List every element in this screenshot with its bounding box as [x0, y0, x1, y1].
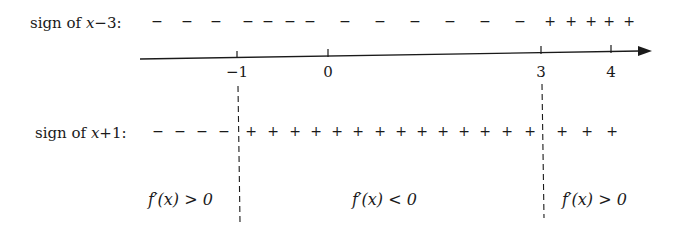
sign-mark: +	[524, 123, 536, 139]
sign-mark: +	[416, 123, 428, 139]
sign-mark: −	[262, 13, 274, 29]
sign-mark: +	[458, 123, 470, 139]
derivative-sign-label: f′(x) > 0	[148, 190, 213, 209]
sign-mark: +	[623, 13, 635, 29]
sign-mark: +	[501, 123, 513, 139]
arrow-head-icon	[638, 46, 652, 56]
row2-label: sign of x+1:	[35, 124, 127, 142]
sign-mark: −	[284, 13, 296, 29]
sign-mark: −	[181, 13, 193, 29]
sign-mark: +	[395, 123, 407, 139]
sign-mark: −	[374, 13, 386, 29]
row2-label-suffix: +1:	[99, 124, 126, 142]
tick-label: −1	[226, 63, 248, 81]
sign-mark: −	[152, 123, 164, 139]
row1-label-suffix: −3:	[94, 14, 121, 32]
sign-mark: −	[444, 13, 456, 29]
sign-mark: +	[606, 123, 618, 139]
sign-mark: −	[218, 123, 230, 139]
sign-mark: −	[479, 13, 491, 29]
sign-mark: −	[174, 123, 186, 139]
sign-mark: +	[289, 123, 301, 139]
sign-mark: +	[479, 123, 491, 139]
sign-mark: −	[242, 13, 254, 29]
sign-mark: +	[603, 13, 615, 29]
sign-mark: +	[437, 123, 449, 139]
number-line	[140, 51, 640, 59]
derivative-sign-label: f′(x) > 0	[562, 190, 627, 209]
sign-mark: +	[267, 123, 279, 139]
sign-mark: +	[565, 13, 577, 29]
row1-label: sign of x−3:	[30, 14, 122, 32]
divider-neg1	[238, 86, 240, 222]
sign-mark: −	[339, 13, 351, 29]
sign-mark: −	[151, 13, 163, 29]
sign-mark: +	[352, 123, 364, 139]
sign-mark: +	[544, 13, 556, 29]
sign-mark: +	[585, 13, 597, 29]
sign-mark: +	[556, 123, 568, 139]
divider-3	[542, 84, 544, 218]
sign-mark: −	[409, 13, 421, 29]
tick-label: 3	[536, 63, 546, 81]
row1-label-prefix: sign of	[30, 14, 86, 32]
sign-mark: −	[196, 123, 208, 139]
row2-label-prefix: sign of	[35, 124, 91, 142]
sign-mark: +	[331, 123, 343, 139]
sign-mark: +	[245, 123, 257, 139]
sign-mark: +	[310, 123, 322, 139]
sign-mark: −	[304, 13, 316, 29]
sign-mark: −	[514, 13, 526, 29]
tick-label: 0	[323, 63, 333, 81]
derivative-sign-label: f′(x) < 0	[352, 190, 417, 209]
sign-mark: +	[581, 123, 593, 139]
tick-label: 4	[606, 63, 616, 81]
sign-mark: +	[374, 123, 386, 139]
sign-mark: −	[210, 13, 222, 29]
